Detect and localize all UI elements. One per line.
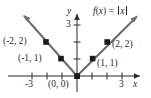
function-close-paren: ): [103, 6, 106, 16]
point-label--2-2: (-2, 2): [3, 37, 27, 47]
x-tick-label-3: 3: [119, 80, 124, 90]
abs-bar-right-icon: [126, 6, 127, 15]
x-axis-label: x: [133, 80, 137, 90]
point-marker--2-2: [43, 39, 49, 45]
function-expression-label: f(x) = x: [93, 6, 129, 17]
point-marker--1-1: [58, 56, 64, 62]
point-label-0-0: (0, 0): [48, 80, 69, 90]
y-axis-label: y: [67, 7, 71, 17]
y-axis-arrowhead: [74, 14, 80, 20]
point-label-2-2: (2, 2): [112, 40, 133, 50]
point-marker-0-0: [74, 73, 80, 79]
point-label-1-1: (1, 1): [97, 59, 118, 69]
point-marker-1-1: [90, 56, 96, 62]
function-equals: =: [109, 6, 114, 16]
point-label--1-1: (-1, 1): [18, 54, 42, 64]
point-marker-2-2: [104, 39, 110, 45]
y-tick-label-3: 3: [66, 20, 71, 30]
absolute-value-graph-figure: f(x) = x y x 3 -3 3 (-2, 2) (-1, 1) (0, …: [0, 0, 151, 98]
x-axis-arrowhead: [134, 73, 140, 79]
x-tick-label--3: -3: [25, 80, 33, 90]
abs-bar-left-icon: [118, 6, 119, 15]
abs-variable: x: [120, 6, 124, 16]
